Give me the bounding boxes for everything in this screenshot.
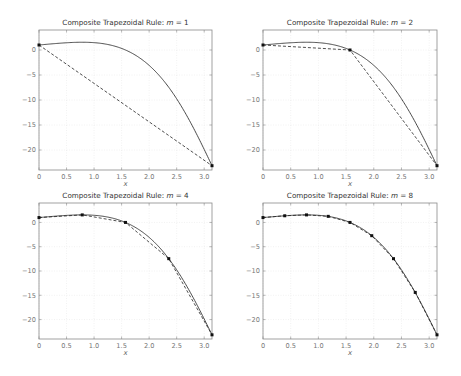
node-marker <box>211 333 214 336</box>
y-tick-label: −5 <box>26 243 36 251</box>
function-curve <box>263 215 437 335</box>
y-tick-label: −15 <box>22 292 36 300</box>
y-tick-label: −5 <box>250 71 260 79</box>
y-tick-label: −20 <box>22 146 36 154</box>
node-marker <box>436 164 439 167</box>
x-tick-label: 1.0 <box>313 173 324 181</box>
node-marker <box>38 216 41 219</box>
x-tick-label: 1.0 <box>89 342 100 350</box>
x-tick-label: 2.5 <box>171 173 182 181</box>
x-axis-label: x <box>347 349 353 357</box>
node-marker <box>414 291 417 294</box>
y-tick-label: −10 <box>22 96 36 104</box>
panel-m1: 00.51.01.52.02.53.00−5−10−15−20xComposit… <box>22 18 213 188</box>
x-tick-label: 0.5 <box>285 173 296 181</box>
chart-title: Composite Trapezoidal Rule: m = 8 <box>287 191 414 200</box>
y-tick-label: 0 <box>256 46 260 54</box>
x-tick-label: 2.0 <box>144 342 155 350</box>
x-tick-label: 0 <box>261 342 265 350</box>
y-tick-label: 0 <box>32 46 36 54</box>
x-tick-label: 2.5 <box>396 342 407 350</box>
x-tick-label: 0 <box>37 342 41 350</box>
trapezoid-line <box>263 215 437 335</box>
x-axis-label: x <box>347 180 353 188</box>
x-tick-label: 2.0 <box>144 173 155 181</box>
y-tick-label: −15 <box>22 121 36 129</box>
y-tick-label: −10 <box>246 96 260 104</box>
panel-m8: 00.51.01.52.02.53.00−5−10−15−20xComposit… <box>246 191 438 357</box>
x-tick-label: 2.5 <box>396 173 407 181</box>
chart-title: Composite Trapezoidal Rule: m = 2 <box>287 18 413 27</box>
x-tick-label: 3.0 <box>424 342 435 350</box>
node-marker <box>262 216 265 219</box>
function-curve <box>39 215 212 335</box>
function-curve <box>263 42 437 165</box>
node-marker <box>305 213 308 216</box>
x-tick-label: 0 <box>37 173 41 181</box>
x-tick-label: 2.5 <box>171 342 182 350</box>
chart-title: Composite Trapezoidal Rule: m = 1 <box>62 18 188 27</box>
x-axis-label: x <box>122 180 128 188</box>
node-marker <box>262 44 265 47</box>
y-tick-label: 0 <box>32 219 36 227</box>
y-tick-label: −20 <box>246 316 260 324</box>
panel-m2: 00.51.01.52.02.53.00−5−10−15−20xComposit… <box>246 18 438 188</box>
x-tick-label: 1.0 <box>313 342 324 350</box>
x-tick-label: 3.0 <box>199 173 210 181</box>
node-marker <box>124 221 127 224</box>
node-marker <box>392 257 395 260</box>
trapezoid-line <box>39 45 212 166</box>
y-tick-label: −10 <box>22 267 36 275</box>
y-tick-label: −20 <box>246 146 260 154</box>
trapezoid-line <box>263 45 437 166</box>
x-tick-label: 1.0 <box>89 173 100 181</box>
trapezoid-line <box>39 215 212 335</box>
x-tick-label: 2.0 <box>369 173 380 181</box>
node-marker <box>38 44 41 47</box>
node-marker <box>370 234 373 237</box>
x-tick-label: 0.5 <box>61 173 72 181</box>
y-tick-label: −15 <box>246 292 260 300</box>
y-tick-label: −5 <box>26 71 36 79</box>
y-tick-label: −5 <box>250 243 260 251</box>
node-marker <box>283 214 286 217</box>
function-curve <box>39 42 212 165</box>
y-tick-label: −15 <box>246 121 260 129</box>
y-tick-label: 0 <box>256 219 260 227</box>
x-tick-label: 3.0 <box>199 342 210 350</box>
node-marker <box>211 164 214 167</box>
x-tick-label: 0.5 <box>61 342 72 350</box>
x-tick-label: 0 <box>261 173 265 181</box>
x-tick-label: 2.0 <box>369 342 380 350</box>
x-axis-label: x <box>122 349 128 357</box>
node-marker <box>327 215 330 218</box>
x-tick-label: 3.0 <box>424 173 435 181</box>
y-tick-label: −10 <box>246 267 260 275</box>
node-marker <box>436 333 439 336</box>
panel-m4: 00.51.01.52.02.53.00−5−10−15−20xComposit… <box>22 191 213 357</box>
node-marker <box>167 257 170 260</box>
node-marker <box>349 221 352 224</box>
figure: 00.51.01.52.02.53.00−5−10−15−20xComposit… <box>0 0 461 376</box>
x-tick-label: 0.5 <box>285 342 296 350</box>
chart-title: Composite Trapezoidal Rule: m = 4 <box>62 191 189 200</box>
node-marker <box>349 49 352 52</box>
node-marker <box>81 213 84 216</box>
y-tick-label: −20 <box>22 316 36 324</box>
